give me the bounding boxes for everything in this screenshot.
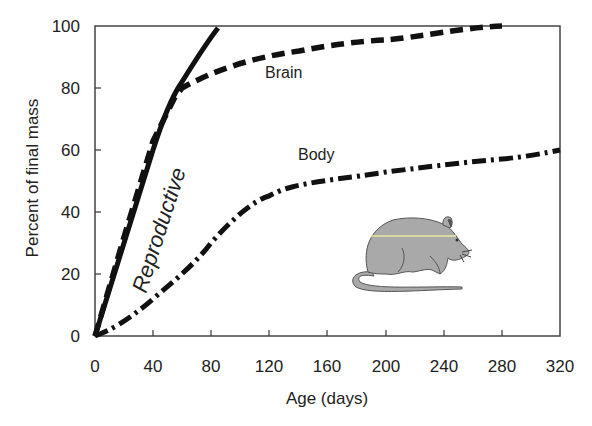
y-tick-0: 0	[71, 327, 80, 346]
y-tick-labels: 0 20 40 60 80 100	[52, 17, 80, 346]
y-tick-40: 40	[61, 203, 80, 222]
label-brain: Brain	[265, 64, 302, 81]
label-body: Body	[298, 146, 334, 163]
x-tick-320: 320	[546, 357, 574, 376]
y-tick-60: 60	[61, 141, 80, 160]
chart: 0 40 80 120 160 200 240 280 320 0 20 40 …	[0, 0, 592, 426]
y-tick-100: 100	[52, 17, 80, 36]
y-tick-80: 80	[61, 79, 80, 98]
x-tick-160: 160	[313, 357, 341, 376]
rat-icon	[353, 217, 472, 292]
x-tick-80: 80	[202, 357, 221, 376]
series-reproductive	[95, 28, 218, 336]
x-axis-title: Age (days)	[286, 389, 368, 408]
x-tick-240: 240	[430, 357, 458, 376]
x-ticks	[153, 330, 502, 336]
label-reproductive: Reproductive	[127, 165, 191, 296]
y-tick-20: 20	[61, 265, 80, 284]
x-tick-200: 200	[372, 357, 400, 376]
y-axis-title: Percent of final mass	[23, 99, 42, 258]
x-tick-120: 120	[255, 357, 283, 376]
y-ticks	[95, 88, 101, 274]
x-tick-280: 280	[488, 357, 516, 376]
x-tick-labels: 0 40 80 120 160 200 240 280 320	[90, 357, 574, 376]
x-tick-40: 40	[144, 357, 163, 376]
x-tick-0: 0	[90, 357, 99, 376]
